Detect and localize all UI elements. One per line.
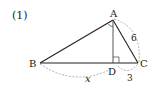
triangle-diagram: (1) A B C D 6 3 x — [0, 0, 156, 94]
vertex-label-B: B — [29, 58, 36, 69]
length-label-DC: 3 — [127, 73, 133, 83]
vertex-label-C: C — [140, 58, 148, 69]
length-label-AC: 6 — [131, 33, 137, 43]
vertex-label-D: D — [108, 66, 116, 77]
right-angle-mark — [113, 57, 119, 63]
problem-number-label: (1) — [12, 9, 28, 22]
dimension-arc-DC — [118, 64, 138, 71]
side-AB — [40, 20, 113, 63]
vertex-label-A: A — [109, 8, 118, 19]
dimension-arc-BD — [40, 64, 113, 77]
angle-mark-A — [108, 23, 114, 26]
length-label-BD: x — [85, 73, 91, 84]
